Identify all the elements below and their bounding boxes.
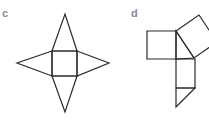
diagram-canvas [0, 0, 209, 121]
figure-d-composite [147, 15, 209, 107]
figure-d-lower-rectangle [176, 59, 195, 88]
figure-d-tilted-square [176, 15, 209, 58]
figure-c-square [52, 51, 77, 76]
figure-c-triangle-top [52, 14, 77, 51]
figure-c-pyramid-net [17, 14, 109, 112]
figure-d-bottom-triangle [176, 88, 195, 107]
figure-c-triangle-right [77, 51, 109, 76]
figure-d-left-square [147, 31, 176, 59]
figure-d-central-triangle [176, 31, 194, 59]
figure-c-triangle-left [17, 51, 52, 76]
figure-c-triangle-bottom [52, 76, 77, 112]
